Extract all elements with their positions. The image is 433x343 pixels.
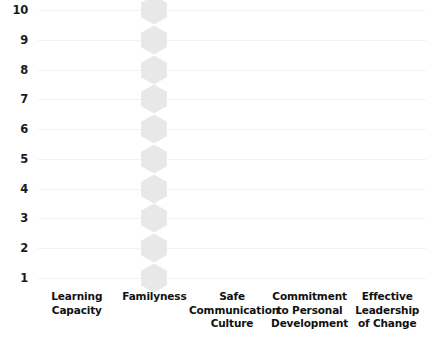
data-point-marker xyxy=(139,114,169,144)
x-axis-label-line: Capacity xyxy=(34,304,120,318)
y-axis-tick-label: 2 xyxy=(20,241,28,255)
data-point-marker xyxy=(139,144,169,174)
gridline xyxy=(38,99,426,100)
x-axis-label-line: Culture xyxy=(189,317,275,331)
x-axis-label-line: Effective xyxy=(344,290,430,304)
gridline xyxy=(38,278,426,279)
x-axis-label-line: to Personal xyxy=(267,304,353,318)
x-axis-label-line: Safe xyxy=(189,290,275,304)
gridline xyxy=(38,129,426,130)
x-axis-label-line: Familyness xyxy=(111,290,197,304)
gridline xyxy=(38,218,426,219)
data-point-marker xyxy=(139,174,169,204)
y-axis-tick-label: 7 xyxy=(20,92,28,106)
y-axis-tick-label: 5 xyxy=(20,152,28,166)
plot-area xyxy=(38,10,426,278)
data-point-marker xyxy=(139,233,169,263)
x-axis-tick-label: LearningCapacity xyxy=(34,290,120,317)
data-point-marker xyxy=(139,0,169,25)
x-axis-tick-label: Familyness xyxy=(111,290,197,304)
y-axis-tick-label: 10 xyxy=(12,3,28,17)
gridline xyxy=(38,189,426,190)
data-point-marker xyxy=(139,25,169,55)
gridline xyxy=(38,159,426,160)
data-point-marker xyxy=(139,263,169,293)
y-axis-tick-label: 9 xyxy=(20,33,28,47)
x-axis-label-line: of Change xyxy=(344,317,430,331)
gridline xyxy=(38,40,426,41)
x-axis-label-line: Commitment xyxy=(267,290,353,304)
data-point-marker xyxy=(139,203,169,233)
x-axis-tick-label: EffectiveLeadershipof Change xyxy=(344,290,430,331)
gridline xyxy=(38,70,426,71)
gridline xyxy=(38,10,426,11)
x-axis-tick-label: Commitmentto PersonalDevelopment xyxy=(267,290,353,331)
x-axis: LearningCapacityFamilynessSafeCommunicat… xyxy=(38,290,426,343)
x-axis-label-line: Leadership xyxy=(344,304,430,318)
x-axis-label-line: Learning xyxy=(34,290,120,304)
y-axis-tick-label: 3 xyxy=(20,211,28,225)
gridline xyxy=(38,248,426,249)
y-axis-tick-label: 4 xyxy=(20,182,28,196)
data-point-marker xyxy=(139,84,169,114)
x-axis-label-line: Communication xyxy=(189,304,275,318)
chart-container: 10987654321 LearningCapacityFamilynessSa… xyxy=(0,0,433,343)
x-axis-label-line: Development xyxy=(267,317,353,331)
data-point-marker xyxy=(139,55,169,85)
y-axis: 10987654321 xyxy=(0,10,34,278)
y-axis-tick-label: 6 xyxy=(20,122,28,136)
y-axis-tick-label: 1 xyxy=(20,271,28,285)
x-axis-tick-label: SafeCommunicationCulture xyxy=(189,290,275,331)
y-axis-tick-label: 8 xyxy=(20,63,28,77)
